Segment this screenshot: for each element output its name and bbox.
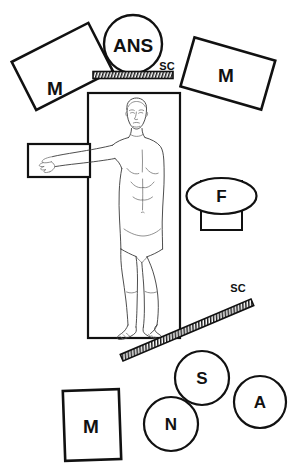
body-frame-rect bbox=[88, 93, 180, 338]
extended-arm-rect bbox=[28, 144, 90, 177]
f-label: F bbox=[216, 187, 226, 206]
a-label: A bbox=[254, 393, 266, 412]
n-label: N bbox=[165, 415, 177, 434]
diagram-canvas: M M ANS SC F SC S bbox=[0, 0, 297, 475]
diagram-svg: M M ANS SC F SC S bbox=[0, 0, 297, 475]
sc-diagonal-label: SC bbox=[230, 282, 245, 294]
magnet-right-label: M bbox=[218, 65, 234, 86]
sc-top-label: SC bbox=[159, 60, 174, 72]
s-label: S bbox=[196, 369, 207, 388]
sc-bar-horizontal[interactable] bbox=[93, 72, 173, 79]
ans-label: ANS bbox=[113, 35, 153, 56]
magnet-bottom-label: M bbox=[83, 416, 99, 437]
magnet-left-label: M bbox=[47, 78, 63, 99]
